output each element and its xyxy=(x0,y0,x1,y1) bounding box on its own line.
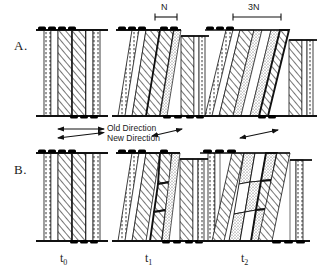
time-label-t2: t2 xyxy=(241,251,248,267)
scale-bar-n-label: N xyxy=(161,2,168,12)
panel-a xyxy=(36,27,317,119)
time-label-t0: t0 xyxy=(60,251,67,267)
scale-bar-n xyxy=(155,14,177,21)
shear-deformation-figure xyxy=(0,0,327,276)
column-b-t1 xyxy=(112,150,208,244)
panel-b xyxy=(36,150,312,244)
scale-bar-3n-label: 3N xyxy=(248,2,260,12)
marker-blobs-b-t2-bottom xyxy=(272,240,305,244)
column-a-t2 xyxy=(203,27,317,119)
time-label-t2-sub: 2 xyxy=(244,258,248,267)
time-label-t0-sub: 0 xyxy=(63,258,67,267)
marker-blobs-b-t2-top xyxy=(203,150,236,154)
direction-arrow-group xyxy=(58,129,278,138)
scale-bar-3n xyxy=(233,14,281,21)
new-direction-arrow xyxy=(58,133,104,139)
column-b-t0 xyxy=(36,150,108,244)
shear-arrow-t2 xyxy=(240,130,278,138)
column-b-t2 xyxy=(198,150,312,244)
old-direction-label: Old Direction xyxy=(107,123,156,133)
marker-blobs-b-t1-top xyxy=(118,150,168,154)
time-label-t1: t1 xyxy=(145,251,152,267)
new-direction-label: New Direction xyxy=(107,133,160,143)
panel-label-a: A. xyxy=(14,38,28,54)
panel-label-b: B. xyxy=(14,162,27,178)
column-a-t1 xyxy=(112,27,209,119)
marker-blobs-b-t0-bottom xyxy=(70,240,98,244)
time-label-t1-sub: 1 xyxy=(148,258,152,267)
column-a-t0 xyxy=(36,27,108,119)
marker-blobs-a-t0-bottom xyxy=(70,115,98,119)
marker-blobs-a-t2-top xyxy=(206,27,234,31)
